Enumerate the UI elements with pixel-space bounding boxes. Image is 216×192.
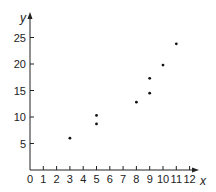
y-tick-label: 15 <box>14 85 26 97</box>
x-axis-arrow-icon <box>192 168 199 173</box>
x-tick-label: 2 <box>54 173 60 185</box>
x-tick-label: 4 <box>80 173 86 185</box>
x-tick-label: 9 <box>147 173 153 185</box>
x-tick-label: 11 <box>171 173 182 185</box>
data-point <box>175 42 178 45</box>
x-tick-label: 0 <box>27 173 33 185</box>
axes: 0123456789101112510152025 <box>14 12 199 185</box>
data-point <box>135 101 138 104</box>
y-tick-label: 5 <box>20 138 26 150</box>
data-point <box>148 92 151 95</box>
data-point <box>95 122 98 125</box>
data-point <box>69 137 72 140</box>
x-tick-label: 10 <box>157 173 169 185</box>
x-tick-label: 12 <box>183 173 195 185</box>
x-axis-label: x <box>199 174 207 188</box>
y-axis-arrow-icon <box>28 12 33 19</box>
x-tick-label: 6 <box>107 173 113 185</box>
y-tick-label: 25 <box>14 32 26 44</box>
x-tick-label: 1 <box>40 173 46 185</box>
data-point <box>148 77 151 80</box>
data-point <box>95 114 98 117</box>
data-points <box>69 42 178 139</box>
x-tick-label: 8 <box>133 173 139 185</box>
data-point <box>162 64 165 67</box>
x-tick-label: 5 <box>93 173 99 185</box>
y-axis-label: y <box>19 11 27 25</box>
y-tick-label: 20 <box>14 58 26 70</box>
x-tick-label: 3 <box>67 173 73 185</box>
scatter-chart: 0123456789101112510152025 x y <box>0 0 216 192</box>
y-tick-label: 10 <box>14 111 26 123</box>
x-tick-label: 7 <box>120 173 126 185</box>
